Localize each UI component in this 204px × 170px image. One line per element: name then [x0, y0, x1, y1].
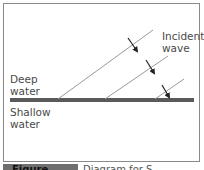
direction-arrow-1 — [128, 38, 137, 51]
figure-number-tag: Figure 7.3.5 — [3, 164, 78, 170]
wavefront-1 — [58, 30, 153, 99]
shallow-water-label: Shallow water — [10, 106, 51, 130]
wavefront-2 — [105, 56, 168, 99]
deep-water-label: Deep water — [10, 73, 40, 97]
direction-arrow-3 — [162, 85, 169, 97]
wavefront-3 — [155, 79, 184, 99]
incident-wave-label: Incident wave — [162, 30, 204, 54]
figure-caption: Diagram for S... — [83, 164, 162, 170]
water-boundary — [10, 98, 194, 102]
